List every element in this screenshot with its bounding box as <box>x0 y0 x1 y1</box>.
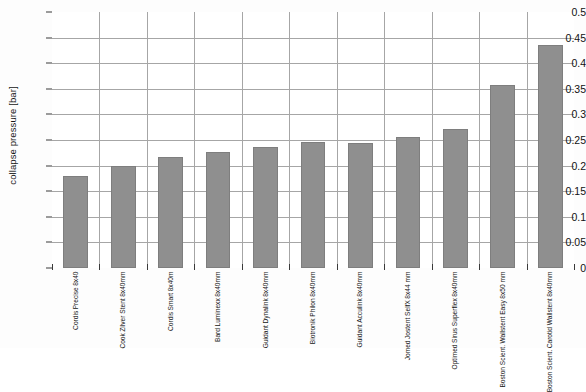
x-axis-category-label: OptimedSirus Superflex8x40mm <box>432 270 479 348</box>
x-axis-category-label-line: Precise <box>72 286 80 310</box>
x-axis-category-label-text: BardLuminexx8x40mm <box>214 270 222 342</box>
y-axis-tick-mark <box>46 63 52 64</box>
x-axis-category-label-text: JomedJostent SelfX8x44 mm <box>404 270 412 360</box>
x-axis-category-label-text: CordisSmart8x40m <box>167 270 175 331</box>
x-axis-category-label-text: GuidantDynalink8x40mm <box>262 270 270 348</box>
x-axis-category-label-line: Boston Scient. <box>499 344 507 388</box>
bar <box>301 142 326 268</box>
bar <box>253 147 278 268</box>
x-axis-category-label: CordisSmart8x40m <box>147 270 194 348</box>
x-axis-category-label: Boston Scient.Carotid Wallstent8x40mm <box>527 270 574 348</box>
y-axis-tick-mark <box>46 114 52 115</box>
x-axis-category-label-line: Jomed <box>404 339 412 360</box>
y-axis-tick-mark <box>46 268 52 269</box>
x-axis-category-label-line: Biotronik Philon <box>309 297 317 344</box>
bar <box>490 85 515 268</box>
x-axis-category-label-line: Optimed <box>452 343 460 369</box>
x-axis-category-label-line: 8x40mm <box>546 270 554 297</box>
y-axis-tick-mark <box>46 242 52 243</box>
x-axis-category-label-line: Jostent SelfX <box>404 299 412 339</box>
bar <box>111 166 136 268</box>
y-axis-tick-mark <box>46 191 52 192</box>
y-axis-tick-mark <box>46 165 52 166</box>
y-axis-tick-label: 0.45 <box>540 32 586 44</box>
x-axis-category-label-line: 8x40mm <box>357 270 365 297</box>
x-axis-category-label-line: Carotid Wallstent <box>546 297 554 348</box>
bar <box>158 157 183 268</box>
y-axis-tick-mark <box>46 12 52 13</box>
x-axis-category-label-line: Cordis <box>167 310 175 331</box>
y-axis-tick-mark <box>46 37 52 38</box>
bars-layer <box>52 12 574 268</box>
x-axis-category-label-line: Wallstent Easy <box>499 299 507 344</box>
x-axis-category-label-line: Cordis <box>72 309 80 330</box>
x-axis-category-label-line: Cook <box>119 332 127 349</box>
x-axis-category-label-line: 8x40mm <box>452 270 460 297</box>
y-axis-tick-label: 0.1 <box>540 211 586 223</box>
y-axis-tick-label: 0.2 <box>540 160 586 172</box>
x-axis-category-label-line: 8x40mm <box>309 270 317 297</box>
y-axis-tick-mark <box>46 140 52 141</box>
x-axis-category-label-line: Luminexx <box>214 297 222 327</box>
x-axis-category-label-text: GuidantAcculink8x40mm <box>357 270 365 347</box>
y-axis-tick-mark <box>46 216 52 217</box>
x-axis-category-label-text: CookZilver Stent8x40mm <box>119 270 127 349</box>
x-axis-category-label-line: 8x50 mm <box>499 270 507 299</box>
y-axis-tick-mark <box>46 88 52 89</box>
y-axis-tick-label: 0 <box>540 262 586 274</box>
y-axis-tick-label: 0.4 <box>540 57 586 69</box>
bar <box>538 45 563 268</box>
y-axis-tick-label: 0.35 <box>540 83 586 95</box>
x-axis-category-label-line: 8x40 <box>72 270 80 286</box>
y-axis-tick-label: 0.5 <box>540 6 586 18</box>
x-axis-category-label-line: 8x40mm <box>262 270 270 297</box>
bar <box>348 143 373 268</box>
bar <box>63 176 88 268</box>
x-axis-category-label-line: 8x40mm <box>119 270 127 297</box>
x-axis-category-label-line: 8x40mm <box>214 270 222 297</box>
x-axis-category-label: Biotronik Philon8x40mm <box>289 270 336 348</box>
y-axis-tick-label: 0.15 <box>540 185 586 197</box>
x-axis-category-label-text: Biotronik Philon8x40mm <box>309 270 317 344</box>
x-axis-category-label-line: Sirus Superflex <box>452 297 460 343</box>
x-axis-category-label-line: Guidant <box>357 323 365 348</box>
x-axis-category-label: Boston Scient.Wallstent Easy8x50 mm <box>479 270 526 348</box>
x-axis-category-label-line: Smart <box>167 291 175 310</box>
x-axis-labels: CordisPrecise8x40CookZilver Stent8x40mmC… <box>52 270 574 348</box>
x-axis-category-label-line: 8x40m <box>167 270 175 291</box>
x-axis-category-label-text: Boston Scient.Carotid Wallstent8x40mm <box>546 270 554 392</box>
y-axis-tick-label: 0.25 <box>540 134 586 146</box>
x-axis-category-label-line: Bard <box>214 327 222 342</box>
bar <box>206 152 231 268</box>
y-axis-tick-label: 0.05 <box>540 236 586 248</box>
x-axis-category-label-line: Dynalink <box>262 297 270 324</box>
x-axis-category-label: CordisPrecise8x40 <box>52 270 99 348</box>
x-axis-category-label-line: Boston Scient. <box>546 348 554 392</box>
bar <box>396 137 421 268</box>
x-axis-category-label-text: Boston Scient.Wallstent Easy8x50 mm <box>499 270 507 388</box>
x-axis-category-label-text: OptimedSirus Superflex8x40mm <box>452 270 460 369</box>
x-axis-category-label: CookZilver Stent8x40mm <box>99 270 146 348</box>
x-axis-category-label: GuidantAcculink8x40mm <box>337 270 384 348</box>
x-axis-category-label: GuidantDynalink8x40mm <box>242 270 289 348</box>
x-axis-category-label-line: Zilver Stent <box>119 297 127 332</box>
x-axis-category-label: BardLuminexx8x40mm <box>194 270 241 348</box>
x-axis-category-label-line: Acculink <box>357 297 365 323</box>
y-axis-title: collapse pressure [bar] <box>2 0 22 270</box>
x-axis-category-label-text: CordisPrecise8x40 <box>72 270 80 330</box>
y-axis-tick-label: 0.3 <box>540 108 586 120</box>
bar <box>443 129 468 268</box>
x-axis-category-label-line: Guidant <box>262 324 270 349</box>
x-axis-category-label-line: 8x44 mm <box>404 270 412 299</box>
x-axis-category-label: JomedJostent SelfX8x44 mm <box>384 270 431 348</box>
